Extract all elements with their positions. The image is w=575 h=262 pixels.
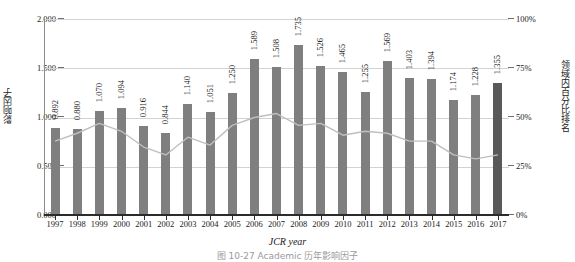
y-axis-title-left: 影响因子	[2, 88, 16, 124]
bar-label-1999: 1.070	[95, 83, 104, 102]
bar-label-1997: 0.892	[51, 100, 60, 119]
bar-label-2014: 1.394	[427, 51, 436, 70]
x-tick-label-2013: 2013	[398, 220, 420, 229]
x-axis-title-text: JCR year	[269, 236, 307, 247]
x-axis-title: JCR year	[0, 236, 575, 247]
x-tick-label-2001: 2001	[133, 220, 155, 229]
x-tick-label-2005: 2005	[221, 220, 243, 229]
x-tick-label-2017: 2017	[487, 220, 509, 229]
x-tick-label-2008: 2008	[288, 220, 310, 229]
bar-label-2002: 0.844	[161, 105, 170, 124]
bar-label-2007: 1.508	[272, 39, 281, 58]
x-tick-label-2006: 2006	[243, 220, 265, 229]
bar-label-2001: 0.916	[139, 98, 148, 117]
y-axis-tick-right-0: 0%	[516, 211, 527, 220]
x-tick-label-2014: 2014	[421, 220, 443, 229]
bar-label-2006: 1.589	[250, 31, 259, 50]
y-axis-tick-right-1: 25%	[516, 162, 532, 171]
x-tick-label-2002: 2002	[155, 220, 177, 229]
percentile-polyline	[55, 114, 498, 159]
figure-container: 2.000 1.500 1.000 0.500 0.000 100% 75% 5…	[0, 0, 575, 262]
bar-label-2012: 1.569	[383, 33, 392, 52]
x-tick-label-2009: 2009	[310, 220, 332, 229]
x-tick-label-1998: 1998	[66, 220, 88, 229]
y-axis-tick-right-3: 75%	[516, 64, 532, 73]
bar-label-2008: 1.735	[294, 17, 303, 36]
bar-label-2016: 1.228	[471, 67, 480, 86]
bar-label-2003: 1.140	[183, 76, 192, 95]
x-tick-label-2015: 2015	[443, 220, 465, 229]
y-axis-title-right: 领域内百分比排名	[556, 60, 570, 132]
x-tick-label-2016: 2016	[465, 220, 487, 229]
x-tick-label-1997: 1997	[44, 220, 66, 229]
bar-label-2004: 1.051	[206, 84, 215, 103]
bar-label-2010: 1.465	[338, 44, 347, 63]
x-tick-label-2012: 2012	[376, 220, 398, 229]
x-tick-label-1999: 1999	[88, 220, 110, 229]
bar-label-2011: 1.255	[361, 64, 370, 83]
bar-label-2015: 1.174	[449, 72, 458, 91]
bar-label-2000: 1.094	[117, 80, 126, 99]
x-tick-label-2011: 2011	[354, 220, 376, 229]
figure-caption: 图 10-27 Academic 历年影响因子	[0, 249, 575, 262]
x-tick-label-2000: 2000	[111, 220, 133, 229]
bar-label-2013: 1.403	[405, 50, 414, 69]
bar-label-2005: 1.250	[228, 65, 237, 84]
x-tick-label-2007: 2007	[266, 220, 288, 229]
y-axis-tick-right-2: 50%	[516, 113, 532, 122]
bar-label-2009: 1.526	[316, 38, 325, 57]
x-tick-label-2003: 2003	[177, 220, 199, 229]
x-tick-label-2010: 2010	[332, 220, 354, 229]
y-axis-tick-right-4: 100%	[516, 15, 536, 24]
x-tick-label-2004: 2004	[199, 220, 221, 229]
bar-label-2017: 1.355	[493, 55, 502, 74]
bar-label-1998: 0.880	[73, 101, 82, 120]
